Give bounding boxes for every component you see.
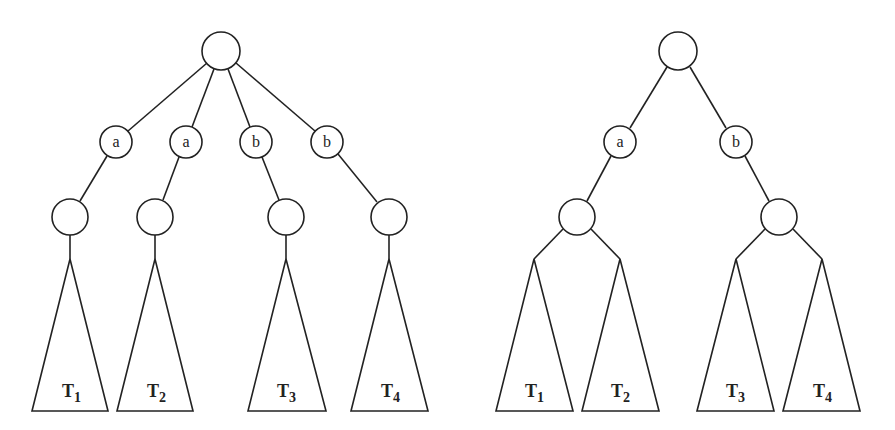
edge-b2-child4 — [338, 154, 377, 202]
node-label: a — [182, 133, 189, 150]
edge-a-child — [587, 156, 611, 201]
child-node — [559, 199, 595, 235]
branch-t2 — [591, 229, 620, 259]
tree-diagram: a a b b T1 T2 T3 T4 a b — [0, 0, 895, 430]
node-label: b — [732, 133, 740, 150]
left-tree: a a b b T1 T2 T3 T4 — [32, 32, 428, 411]
root-node — [659, 32, 697, 70]
edge-b-child — [745, 156, 769, 201]
child-node — [268, 199, 304, 235]
node-label: a — [112, 133, 119, 150]
branch-t1 — [534, 229, 563, 259]
edge-root-b1 — [228, 69, 250, 127]
node-label: b — [323, 133, 331, 150]
edge-a2-child2 — [163, 157, 179, 200]
child-node — [137, 199, 173, 235]
edge-b1-child3 — [262, 157, 279, 200]
edge-root-a — [630, 67, 667, 128]
edge-root-b — [690, 67, 726, 128]
edge-root-a2 — [192, 69, 214, 127]
edge-a1-child1 — [80, 156, 107, 201]
branch-t4 — [793, 229, 822, 259]
branch-t3 — [736, 229, 765, 259]
node-label: a — [616, 133, 623, 150]
child-node — [371, 199, 407, 235]
child-node — [52, 199, 88, 235]
child-node — [761, 199, 797, 235]
root-node — [202, 32, 240, 70]
right-tree: a b T1 T2 T3 T4 — [496, 32, 860, 411]
node-label: b — [252, 133, 260, 150]
